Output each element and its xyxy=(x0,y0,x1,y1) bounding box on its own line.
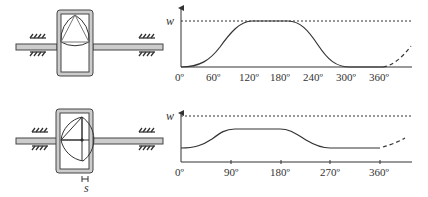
svg-text:180º: 180º xyxy=(270,166,291,178)
svg-text:120º: 120º xyxy=(239,71,260,83)
svg-text:0º: 0º xyxy=(175,71,185,83)
left-shaft xyxy=(16,138,57,144)
bottom-mechanism: s xyxy=(16,109,163,195)
svg-text:270º: 270º xyxy=(320,166,341,178)
displacement-curve xyxy=(181,21,383,67)
next-cycle-curve xyxy=(383,138,405,147)
x-tick-labels: 0º 60º 120º 180º 240º 300º 360º xyxy=(175,71,390,83)
left-shaft xyxy=(16,44,57,50)
svg-text:60º: 60º xyxy=(206,71,221,83)
top-mechanism xyxy=(16,10,163,76)
next-cycle-curve xyxy=(383,46,411,67)
offset-label: s xyxy=(84,181,89,195)
svg-text:300º: 300º xyxy=(336,71,357,83)
svg-text:360º: 360º xyxy=(369,71,390,83)
svg-text:0º: 0º xyxy=(175,166,185,178)
svg-text:360º: 360º xyxy=(369,166,390,178)
displacement-curve xyxy=(181,129,380,148)
y-axis-label: w xyxy=(166,14,174,28)
svg-text:90º: 90º xyxy=(224,166,239,178)
x-tick-labels: 0º 90º 180º 270º 360º xyxy=(175,166,390,178)
right-shaft xyxy=(93,138,163,144)
svg-text:240º: 240º xyxy=(303,71,324,83)
top-chart: w 0º 60º 120º 180º 240º 300º 360º xyxy=(166,8,412,83)
svg-text:180º: 180º xyxy=(270,71,291,83)
bottom-chart: w 0º 90º 180º 270º 360º xyxy=(166,109,412,178)
right-shaft xyxy=(93,44,163,50)
y-axis-label: w xyxy=(166,109,174,123)
cam-diagram: s w 0º 60º 120º 180º 240º 300º 360º w 0 xyxy=(0,0,428,197)
